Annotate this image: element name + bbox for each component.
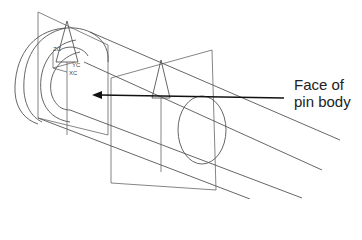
left-cone-marker <box>56 21 78 62</box>
callout-arrow-line <box>100 95 284 98</box>
flange-right-arc <box>66 28 108 62</box>
yc-axis-label: YC <box>72 62 80 68</box>
flange-outer-arc <box>15 28 66 124</box>
arrow-head-icon <box>92 91 102 99</box>
pin-end-ellipse <box>178 96 226 164</box>
flange-inner-arc-2 <box>51 52 80 110</box>
callout-label: Face of pin body <box>294 76 351 110</box>
callout-line-2: pin body <box>294 93 351 110</box>
zc-axis-label: ZC <box>53 46 61 52</box>
cylinder-lower-edge <box>70 110 302 198</box>
cylinder-upper-edge <box>84 62 322 170</box>
xc-axis-label: XC <box>69 70 77 76</box>
cylinder-bottom-edge <box>38 118 250 199</box>
flange-outer-arc-2 <box>24 28 66 122</box>
callout-line-1: Face of <box>294 76 351 93</box>
